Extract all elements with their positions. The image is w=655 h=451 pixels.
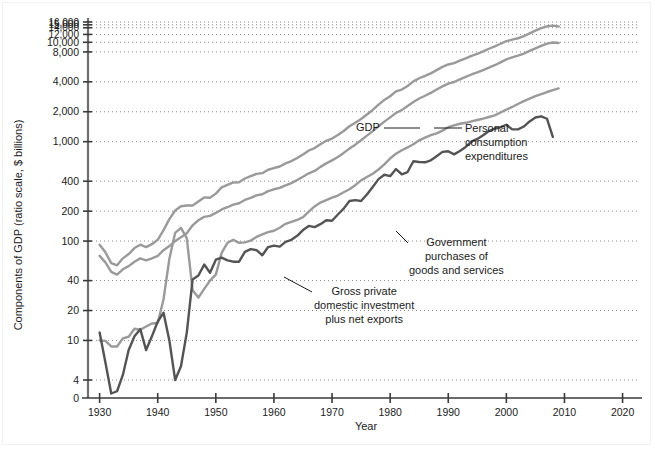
- x-tick-label: 2000: [495, 406, 519, 418]
- y-tick-label: 200: [61, 205, 79, 217]
- y-tick-label: 20: [67, 304, 79, 316]
- x-axis-title: Year: [355, 420, 378, 432]
- y-tick-label-zero: 0: [73, 392, 79, 404]
- series-line-group: [100, 26, 559, 394]
- leader-gross-private-investment: [284, 277, 312, 292]
- y-tick-label: 10: [67, 334, 79, 346]
- x-tick-label: 1940: [146, 406, 170, 418]
- y-tick-group: 41020401002004001,0002,0004,0008,00010,0…: [47, 17, 92, 404]
- gdp-components-line-chart: 41020401002004001,0002,0004,0008,00010,0…: [0, 0, 655, 451]
- y-tick-label: 1,000: [53, 135, 79, 147]
- x-tick-label: 1980: [378, 406, 402, 418]
- x-tick-label: 1930: [88, 406, 112, 418]
- x-tick-group: 1930194019501960197019801990200020102020: [88, 393, 634, 418]
- annotation-line: Government: [426, 236, 487, 248]
- y-tick-label: 16,000: [48, 17, 79, 28]
- annotation-line: goods and services: [409, 264, 504, 276]
- y-tick-label: 4: [73, 374, 79, 386]
- y-tick-label: 4,000: [53, 75, 79, 87]
- chart-page: 41020401002004001,0002,0004,0008,00010,0…: [0, 0, 655, 451]
- x-tick-label: 1990: [437, 406, 461, 418]
- annotation-gdp: GDP: [356, 121, 380, 133]
- annotation-line: GDP: [356, 121, 380, 133]
- leader-government-purchases: [396, 231, 408, 243]
- x-tick-label: 1960: [262, 406, 286, 418]
- annotation-line: domestic investment: [314, 299, 414, 311]
- annotation-government-purchases: Governmentpurchases ofgoods and services: [409, 236, 504, 276]
- y-tick-label: 40: [67, 274, 79, 286]
- y-tick-label: 2,000: [53, 105, 79, 117]
- x-tick-label: 1950: [204, 406, 228, 418]
- annotation-line: expenditures: [465, 150, 528, 162]
- x-tick-label: 2020: [611, 406, 635, 418]
- annotation-gross-private-investment: Gross privatedomestic investmentplus net…: [314, 285, 414, 325]
- y-tick-label: 400: [61, 175, 79, 187]
- annotation-line: plus net exports: [325, 313, 403, 325]
- y-tick-label: 100: [61, 235, 79, 247]
- annotation-line: purchases of: [425, 250, 489, 262]
- x-tick-label: 2010: [553, 406, 577, 418]
- annotation-line: Personal: [465, 122, 508, 134]
- y-axis-title: Components of GDP (ratio scale, $ billio…: [12, 120, 24, 331]
- annotation-line: Gross private: [331, 285, 396, 297]
- axis-group: [82, 18, 642, 398]
- x-tick-label: 1970: [320, 406, 344, 418]
- annotation-line: consumption: [465, 136, 527, 148]
- gridline-group: [92, 22, 640, 380]
